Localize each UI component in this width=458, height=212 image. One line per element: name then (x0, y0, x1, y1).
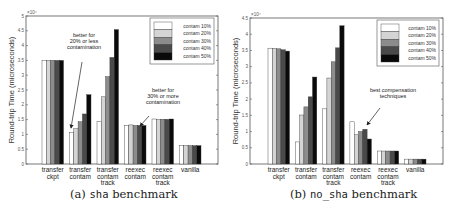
x-category-label: contam (125, 173, 146, 180)
x-category-label: ckpt (47, 173, 59, 181)
bar (422, 159, 426, 164)
chart-sha-benchmark: 00.511.522.533.544.55×10⁴Round-trip Time… (7, 10, 218, 186)
annotation-text: techniques (380, 93, 407, 99)
bar (169, 119, 173, 164)
bar (413, 159, 417, 164)
legend-label: contam 20% (183, 30, 211, 36)
bar (188, 146, 192, 164)
figure: 00.511.522.533.544.55×10⁴Round-trip Time… (0, 0, 458, 212)
y-tick-label: 1 (21, 132, 24, 137)
y-tick-label: 0.5 (18, 147, 25, 152)
legend-label: contam 10% (408, 25, 436, 31)
bar (377, 151, 381, 164)
y-tick-label: 1.5 (18, 117, 25, 122)
x-category-label: vanilla (181, 166, 200, 173)
y-multiplier: ×10⁴ (251, 12, 261, 17)
bar (78, 122, 82, 164)
bar (386, 151, 390, 164)
bar (197, 146, 201, 164)
bar (323, 109, 327, 164)
bar (106, 77, 110, 164)
bar (272, 48, 276, 164)
annotation-text: contamination (67, 44, 101, 50)
y-tick-label: 2.5 (18, 88, 25, 93)
y-tick-label: 0 (21, 162, 24, 167)
chart-no-sha-benchmark: 00.511.522.533.544.5×10⁴Round-trip Time … (231, 12, 443, 186)
bar (125, 126, 129, 164)
bar (327, 78, 331, 164)
caption-a-prefix: (a) (70, 187, 86, 201)
x-category-label: vanilla (406, 166, 425, 173)
bar (55, 60, 59, 164)
legend-swatch (154, 45, 172, 53)
bar (180, 146, 184, 164)
bar (74, 129, 78, 164)
bar (409, 159, 413, 164)
y-tick-label: 1.5 (242, 113, 249, 118)
bar (300, 115, 304, 164)
bar (142, 126, 146, 164)
bar (184, 146, 188, 164)
annotation-text: contamination (146, 99, 180, 105)
bar (285, 51, 289, 164)
y-tick-label: 4.5 (18, 28, 25, 33)
bar (137, 126, 141, 164)
caption-b-code: no_sha (310, 188, 348, 200)
bar (114, 30, 118, 164)
bar (133, 126, 137, 164)
bar (281, 50, 285, 164)
bar (42, 60, 46, 164)
y-tick-label: 5 (21, 14, 24, 19)
bar (70, 133, 74, 164)
legend-swatch (154, 52, 172, 60)
bar (110, 57, 114, 164)
y-tick-label: 2 (245, 97, 248, 102)
x-category-label: track (101, 179, 116, 186)
caption-b-prefix: (b) (290, 187, 306, 201)
bar (268, 48, 272, 164)
bar (46, 60, 50, 164)
legend-swatch (154, 37, 172, 45)
bar (354, 135, 358, 164)
x-category-label: contam (350, 173, 371, 180)
legend-swatch (381, 24, 399, 32)
caption-a-suffix: benchmark (112, 187, 178, 201)
caption-b: (b) no_sha benchmark (290, 187, 417, 201)
bar (340, 26, 344, 164)
y-axis-label: Round-trip Time (microseconds) (7, 36, 16, 143)
y-tick-label: 3 (245, 64, 248, 69)
bar (97, 122, 101, 164)
legend-label: contam 50% (408, 55, 436, 61)
bar (394, 151, 398, 164)
bar (152, 119, 156, 164)
legend-label: contam 10% (183, 23, 211, 29)
caption-a: (a) sha benchmark (70, 187, 178, 201)
annotation-arrow (140, 116, 149, 126)
bar (101, 97, 105, 164)
y-axis-label: Round-trip Time (microseconds) (231, 37, 240, 144)
bar (156, 120, 160, 164)
legend-swatch (381, 54, 399, 62)
legend-label: contam 30% (183, 38, 211, 44)
bar (165, 119, 169, 164)
y-tick-label: 0 (245, 162, 248, 167)
bar (382, 151, 386, 164)
y-tick-label: 4 (245, 32, 248, 37)
bar (336, 48, 340, 164)
x-category-label: ckpt (273, 173, 285, 181)
y-tick-label: 1 (245, 129, 248, 134)
bar (51, 60, 55, 164)
bar (350, 122, 354, 164)
y-tick-label: 2.5 (242, 80, 249, 85)
legend: contam 10%contam 20%contam 30%contam 40%… (377, 20, 439, 66)
legend-label: contam 40% (408, 47, 436, 53)
legend-label: contam 20% (408, 32, 436, 38)
legend-swatch (381, 39, 399, 47)
legend: contam 10%contam 20%contam 30%contam 40%… (150, 18, 214, 64)
y-tick-label: 3.5 (18, 58, 25, 63)
legend-label: contam 30% (408, 40, 436, 46)
bar (59, 60, 63, 164)
bar (82, 114, 86, 164)
bar (405, 159, 409, 164)
bar (331, 62, 335, 164)
